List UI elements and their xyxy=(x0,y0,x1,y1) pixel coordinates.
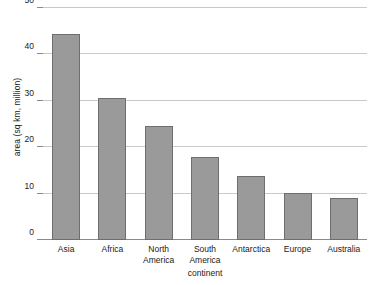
x-axis-tick-label: Australia xyxy=(321,244,367,266)
y-axis-tick-label: 10 xyxy=(25,181,34,190)
bar-slot xyxy=(228,8,274,240)
bar-slot xyxy=(89,8,135,240)
x-axis-tick-label: Europe xyxy=(274,244,320,266)
y-axis-tick-label: 0 xyxy=(29,228,34,237)
bar[interactable] xyxy=(98,98,126,240)
x-axis-tick-label: Africa xyxy=(89,244,135,266)
bar[interactable] xyxy=(191,157,219,240)
y-axis-tick-label: 50 xyxy=(25,0,34,4)
y-axis-title: area (sq km, million) xyxy=(12,52,22,182)
bar-slot xyxy=(43,8,89,240)
bar[interactable] xyxy=(330,198,358,240)
bar[interactable] xyxy=(284,193,312,240)
x-axis-tick-label: North America xyxy=(136,244,182,266)
x-axis-tick-label: Asia xyxy=(43,244,89,266)
y-axis-tick-label: 40 xyxy=(25,42,34,51)
x-axis-title: continent xyxy=(43,268,367,278)
bar[interactable] xyxy=(145,126,173,240)
bar[interactable] xyxy=(237,176,265,240)
y-axis-tick-label: 30 xyxy=(25,89,34,98)
bar-slot xyxy=(182,8,228,240)
bar-chart: area (sq km, million) 01020304050 AsiaAf… xyxy=(0,0,370,285)
bar-slot xyxy=(321,8,367,240)
bar-slot xyxy=(274,8,320,240)
bar[interactable] xyxy=(52,34,80,240)
x-axis-tick-label: South America xyxy=(182,244,228,266)
bar-slot xyxy=(136,8,182,240)
y-axis-tick-label: 20 xyxy=(25,135,34,144)
x-axis-tick-label: Antarctica xyxy=(228,244,274,266)
x-axis-tick-labels: AsiaAfricaNorth AmericaSouth AmericaAnta… xyxy=(43,244,367,266)
plot-area: 01020304050 xyxy=(43,8,367,240)
bar-group xyxy=(43,8,367,240)
